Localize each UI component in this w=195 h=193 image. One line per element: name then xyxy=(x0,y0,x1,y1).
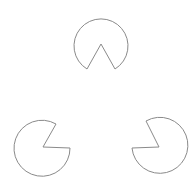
kanizsa-figure xyxy=(0,0,195,193)
pacman-bottom-left xyxy=(14,120,70,176)
pacman-top xyxy=(74,19,128,69)
pacman-bottom-right xyxy=(132,117,188,173)
